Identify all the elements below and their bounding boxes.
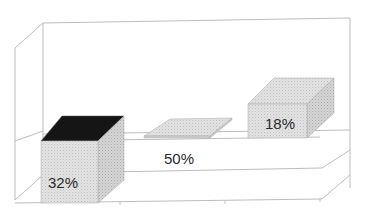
bar-1-label: 32% <box>48 174 78 191</box>
bar-2: 50% <box>144 118 232 167</box>
bar-1: 32% <box>41 116 124 203</box>
bar-2-edge <box>144 136 210 138</box>
bar-3: 18% <box>248 78 334 138</box>
bar-3-label: 18% <box>265 115 295 132</box>
bar-1-front <box>41 141 98 203</box>
bar-2-top <box>144 118 232 136</box>
bar-chart-3d: 32% 50% 18% <box>0 0 368 212</box>
bar-2-label: 50% <box>164 150 194 167</box>
